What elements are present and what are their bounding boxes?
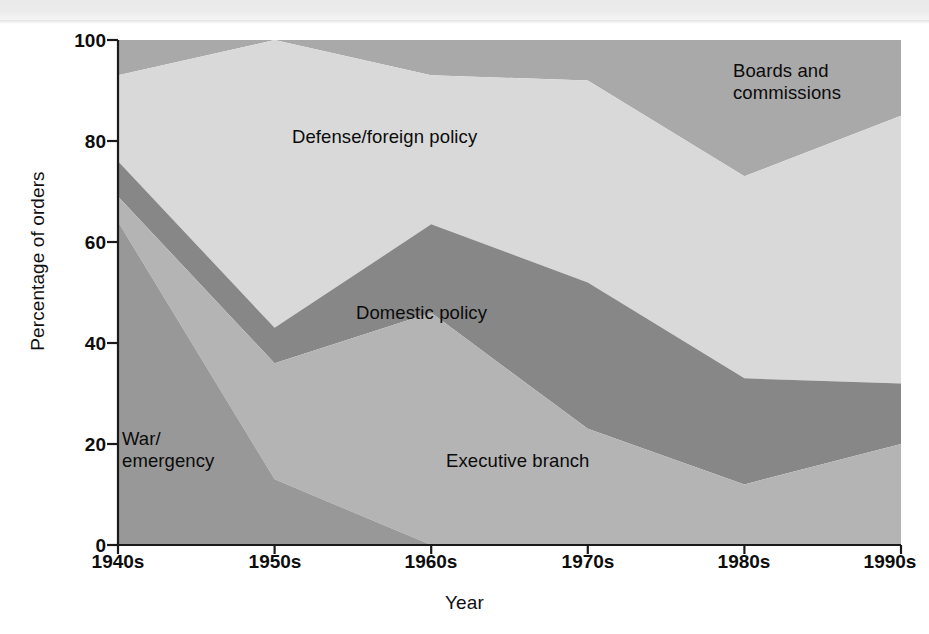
y-tick-label-40: 40 (46, 333, 106, 355)
x-tick-label-1960s: 1960s (381, 551, 481, 573)
y-tick-label-80: 80 (46, 131, 106, 153)
y-axis-title: Percentage of orders (27, 131, 49, 391)
series-label-executive-branch: Executive branch (446, 450, 590, 472)
x-tick-label-1940s: 1940s (68, 551, 168, 573)
series-label-defense-foreign-policy: Defense/foreign policy (292, 126, 477, 148)
x-tick-label-1980s: 1980s (694, 551, 794, 573)
y-tick-label-20: 20 (46, 434, 106, 456)
series-label-war-emergency: War/ emergency (122, 428, 214, 472)
y-tick-label-100: 100 (46, 30, 106, 52)
x-axis-title: Year (0, 592, 929, 614)
x-tick-label-1950s: 1950s (225, 551, 325, 573)
x-tick-label-1970s: 1970s (538, 551, 638, 573)
y-tick-label-60: 60 (46, 232, 106, 254)
series-label-boards-and-commissions: Boards and commissions (733, 60, 841, 104)
series-label-domestic-policy: Domestic policy (356, 302, 487, 324)
x-tick-label-1990s: 1990s (840, 551, 929, 573)
chart-figure: 100 80 60 40 20 0 1940s 1950s 1960s 1970… (0, 0, 929, 634)
y-tick-marks (107, 40, 118, 545)
